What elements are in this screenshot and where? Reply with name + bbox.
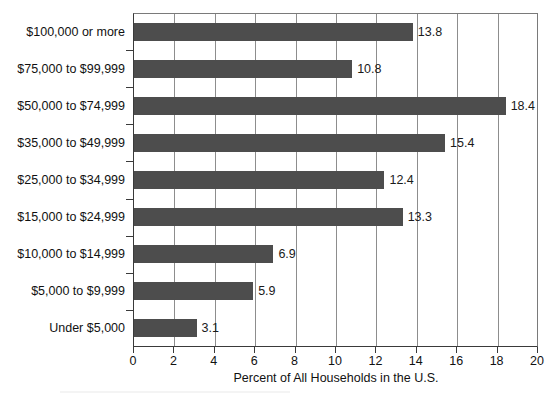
x-axis-tick-label: 12 (355, 354, 395, 369)
bar-value-label: 13.8 (413, 23, 442, 41)
x-axis-tick (214, 347, 215, 353)
category-label: $5,000 to $9,999 (0, 282, 125, 300)
bar-value-label: 18.4 (506, 97, 535, 115)
x-axis-tick (416, 347, 417, 353)
category-label: $75,000 to $99,999 (0, 60, 125, 78)
bar (134, 245, 273, 263)
bar (134, 171, 384, 189)
x-axis-tick-label: 6 (234, 354, 274, 369)
bar (134, 134, 445, 152)
x-axis-tick-label: 8 (275, 354, 315, 369)
category-label: Under $5,000 (0, 319, 125, 337)
page-artifact (60, 391, 290, 393)
bar-value-label: 10.8 (352, 60, 381, 78)
y-axis-tick (126, 124, 133, 125)
x-axis-title: Percent of All Households in the U.S. (133, 371, 539, 385)
y-axis-tick (126, 199, 133, 200)
bar (134, 208, 403, 226)
y-axis-tick (126, 161, 133, 162)
bar (134, 23, 413, 41)
bar (134, 97, 506, 115)
bar (134, 319, 197, 337)
x-axis-tick-label: 10 (315, 354, 355, 369)
x-axis-tick-label: 18 (477, 354, 517, 369)
x-axis-tick (133, 347, 134, 353)
y-axis-tick (126, 310, 133, 311)
bars-layer: 13.810.818.415.412.413.36.95.93.1 (134, 14, 538, 347)
x-axis-tick (375, 347, 376, 353)
x-axis-tick-label: 16 (436, 354, 476, 369)
bar-value-label: 5.9 (253, 282, 275, 300)
x-axis-tick-label: 20 (517, 354, 557, 369)
y-axis-tick (126, 87, 133, 88)
bar-value-label: 15.4 (445, 134, 474, 152)
category-label: $25,000 to $34,999 (0, 171, 125, 189)
x-axis-tick (254, 347, 255, 353)
bar-value-label: 6.9 (273, 245, 295, 263)
category-label: $100,000 or more (0, 23, 125, 41)
x-axis-tick-label: 14 (396, 354, 436, 369)
bar-value-label: 3.1 (197, 319, 219, 337)
x-axis-tick (173, 347, 174, 353)
y-axis-tick (126, 273, 133, 274)
category-label: $15,000 to $24,999 (0, 208, 125, 226)
x-axis-tick (295, 347, 296, 353)
x-axis-tick (456, 347, 457, 353)
household-income-bar-chart: $100,000 or more$75,000 to $99,999$50,00… (0, 0, 560, 399)
category-label: $35,000 to $49,999 (0, 134, 125, 152)
bar-value-label: 12.4 (384, 171, 413, 189)
x-axis-tick (335, 347, 336, 353)
y-axis-tick (126, 236, 133, 237)
x-axis-tick-label: 0 (113, 354, 153, 369)
bar (134, 60, 352, 78)
x-axis-tick-label: 2 (153, 354, 193, 369)
y-axis-tick (126, 50, 133, 51)
category-label: $50,000 to $74,999 (0, 97, 125, 115)
bar-value-label: 13.3 (403, 208, 432, 226)
x-axis-tick (497, 347, 498, 353)
category-label: $10,000 to $14,999 (0, 245, 125, 263)
bar (134, 282, 253, 300)
x-axis-tick (537, 347, 538, 353)
x-axis-tick-label: 4 (194, 354, 234, 369)
